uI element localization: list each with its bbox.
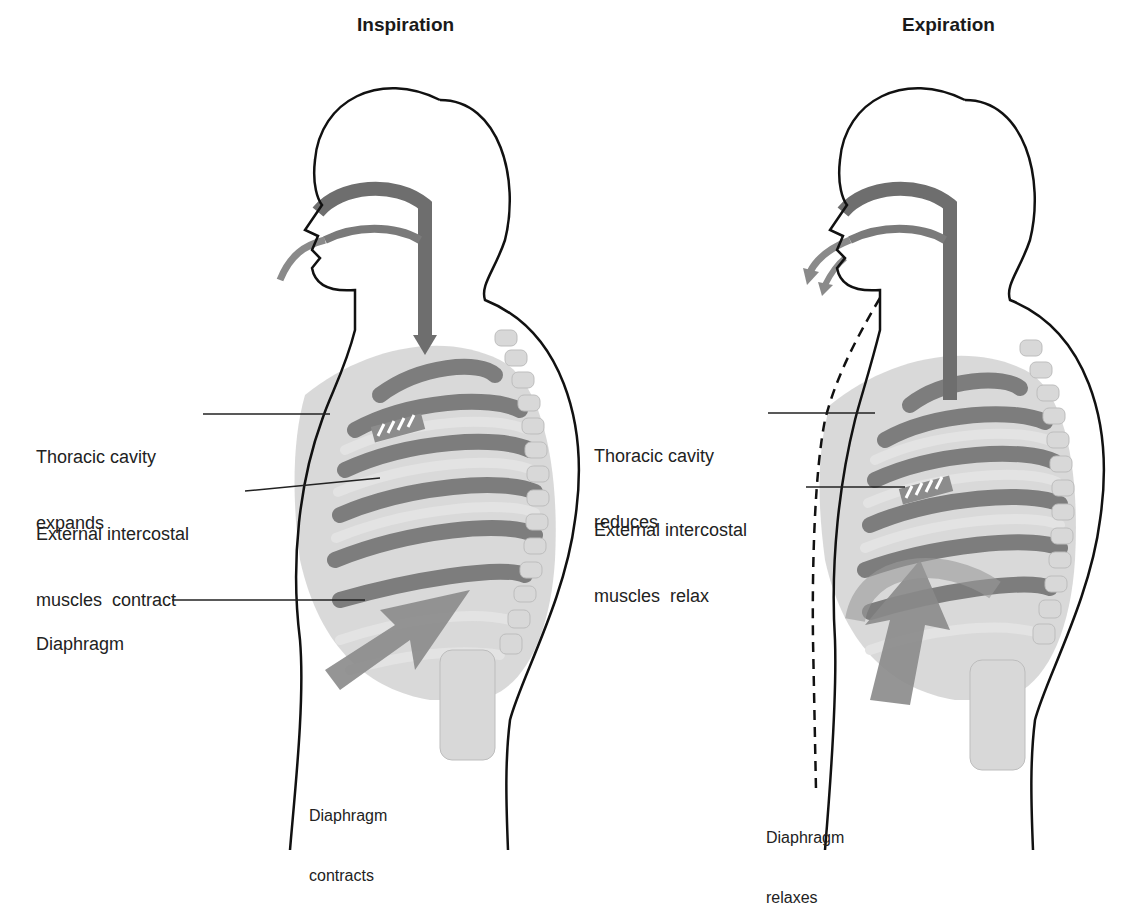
airway <box>318 189 425 340</box>
intercostal-relax-label: External intercostal muscles relax <box>594 475 747 629</box>
diaphragm-relaxes-label: Diaphragm relaxes <box>766 788 844 907</box>
inspiration-figure <box>172 88 579 850</box>
diaphragm-label: Diaphragm <box>36 589 124 677</box>
diaphragm-contracts-label: Diaphragm contracts <box>309 766 387 906</box>
inspiration-title: Inspiration <box>357 14 454 36</box>
expiration-figure <box>803 88 1104 850</box>
expiration-title: Expiration <box>902 14 995 36</box>
